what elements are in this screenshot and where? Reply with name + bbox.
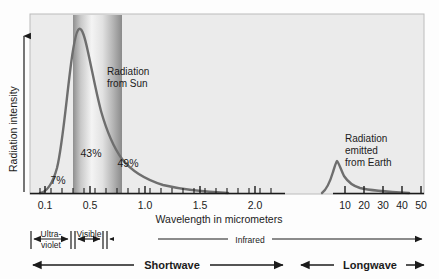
y-axis-label: Radiation intensity xyxy=(7,85,19,172)
earth-curve-label-line2: emitted xyxy=(345,145,378,156)
sun-curve-label-line1: Radiation xyxy=(107,66,149,77)
sun-curve-label-line2: from Sun xyxy=(107,78,148,89)
visible-band-shading xyxy=(73,15,122,193)
x-tick-label-20: 20 xyxy=(358,199,370,211)
x-tick-label-10: 10 xyxy=(339,199,351,211)
ultraviolet-band-label-line1: Ultra- xyxy=(41,229,62,239)
visible-percentage-label: 43% xyxy=(80,147,101,159)
x-tick-label-1-5: 1.5 xyxy=(193,199,208,211)
visible-band-label: Visible xyxy=(77,229,102,239)
earth-curve-label-line1: Radiation xyxy=(345,133,387,144)
x-axis-label: Wavelength in micrometers xyxy=(156,213,283,225)
x-tick-label-0-5: 0.5 xyxy=(83,199,98,211)
x-tick-label-30: 30 xyxy=(377,199,389,211)
x-tick-label-2-0: 2.0 xyxy=(248,199,263,211)
x-tick-label-40: 40 xyxy=(396,199,408,211)
x-tick-label-0-1: 0.1 xyxy=(38,199,53,211)
ultraviolet-band-label-line2: violet xyxy=(41,240,61,250)
infrared-percentage-label: 49% xyxy=(117,157,138,169)
x-tick-label-50: 50 xyxy=(415,199,427,211)
x-tick-label-1-0: 1.0 xyxy=(138,199,153,211)
radiation-spectrum-figure: Radiation intensity xyxy=(0,0,439,279)
infrared-band-label: Infrared xyxy=(235,235,265,245)
longwave-label: Longwave xyxy=(343,259,397,271)
earth-curve-label-line3: from Earth xyxy=(345,157,392,168)
uv-percentage-label: 7% xyxy=(50,174,65,186)
shortwave-label: Shortwave xyxy=(144,259,200,271)
